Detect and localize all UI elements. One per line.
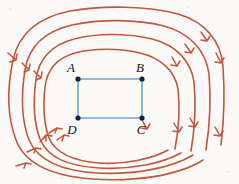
arrow-bottom-mid2	[16, 163, 31, 168]
arrow-bottom-mid1	[27, 148, 41, 153]
arrow-bottom-inner	[49, 128, 62, 133]
arrow-right-inner	[171, 57, 180, 66]
figure-canvas: A B C D	[0, 0, 239, 184]
paper-speck-4	[186, 6, 189, 8]
field-line-1	[44, 49, 179, 163]
vertex-dot-A	[75, 76, 80, 81]
paper-speck-2	[226, 170, 230, 173]
paper-speck-1	[9, 8, 12, 10]
vertex-label-A: A	[66, 60, 75, 75]
field-line-4	[9, 7, 224, 180]
vertex-label-B: B	[136, 60, 144, 75]
arrow-right-mid1	[185, 44, 194, 53]
vertex-label-D: D	[66, 122, 77, 137]
field-arrowheads-lower-right	[141, 118, 223, 136]
field-arrowheads-left	[8, 53, 52, 142]
field-line-3	[22, 21, 210, 174]
paper-speck-3	[60, 177, 63, 179]
rectangular-loop-group	[75, 76, 144, 120]
magnetic-field-lines-group	[8, 7, 224, 180]
vertex-label-C: C	[137, 122, 146, 137]
field-line-2	[34, 35, 195, 169]
arrow-left-outer	[8, 53, 17, 62]
field-arrowheads-bottom	[16, 128, 69, 168]
magnetic-field-figure: A B C D	[0, 0, 239, 184]
vertex-dot-B	[139, 76, 144, 81]
vertex-dot-D	[75, 115, 80, 120]
arrow-lower-right-mid2	[189, 118, 198, 127]
field-arrowheads-right	[171, 32, 224, 66]
vertex-dot-C	[139, 115, 144, 120]
